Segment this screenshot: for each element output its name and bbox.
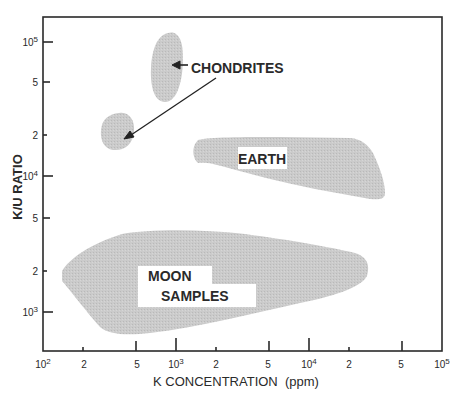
kU-ratio-chart: CHONDRITES EARTH MOON SAMPLES 105 5 2 [0,0,454,393]
x-tick-1e2: 102 [35,357,51,370]
y-tick-2e4: 2 [32,130,38,141]
y-axis-title: K/U RATIO [10,154,25,219]
x-axis-tick-labels: 102 2 5 103 2 5 104 2 5 105 [35,357,450,370]
y-tick-1e5: 105 [22,35,38,48]
moon-label-line2: SAMPLES [161,288,229,304]
earth-label: EARTH [238,151,286,167]
x-tick-1e3: 103 [168,357,184,370]
x-tick-1e4: 104 [301,357,317,370]
chart-canvas: CHONDRITES EARTH MOON SAMPLES 105 5 2 [0,0,454,393]
y-tick-5e3: 5 [32,213,38,224]
y-tick-5e4: 5 [32,77,38,88]
x-axis-title: K CONCENTRATION (ppm) [153,374,319,389]
x-tick-2e3: 2 [213,359,219,370]
x-tick-5e4: 5 [398,359,404,370]
x-axis-ticks [83,338,402,351]
moon-label-line1: MOON [148,268,192,284]
chondrites-label: CHONDRITES [191,60,284,76]
y-axis-ticks [43,42,53,312]
y-tick-2e3: 2 [32,266,38,277]
x-tick-5e2: 5 [134,359,140,370]
x-tick-5e3: 5 [265,359,271,370]
x-tick-2e4: 2 [346,359,352,370]
region-moon [62,230,368,334]
x-tick-2e2: 2 [81,359,87,370]
x-tick-1e5: 105 [434,357,450,370]
y-tick-1e3: 103 [22,305,38,318]
region-earth [193,137,385,199]
